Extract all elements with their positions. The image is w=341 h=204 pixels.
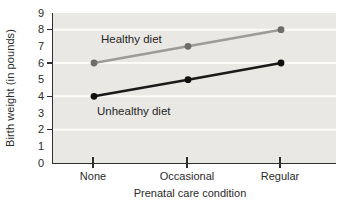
series-label-healthy-diet: Healthy diet [101,33,162,45]
point-healthy-diet-occasional [185,43,192,50]
y-tick-label-4: 4 [22,90,44,103]
y-axis-title: Birth weight (in pounds) [4,29,16,147]
birth-weight-chart: Birth weight (in pounds) 0123456789 Heal… [0,0,341,204]
y-tick-label-1: 1 [22,140,44,153]
x-tick-label-occasional: Occasional [142,170,232,182]
y-tick-label-3: 3 [22,107,44,120]
point-healthy-diet-none [91,60,98,67]
chart-lines-svg [53,13,336,163]
x-axis-title: Prenatal care condition [100,187,280,199]
point-healthy-diet-regular [278,26,285,33]
y-tick-label-2: 2 [22,123,44,136]
x-tick-mark-occasional [186,157,187,168]
series-label-unhealthy-diet: Unhealthy diet [97,105,171,117]
point-unhealthy-diet-none [91,93,98,100]
x-tick-label-regular: Regular [235,170,325,182]
x-tick-label-none: None [48,170,138,182]
x-tick-mark-regular [279,157,280,168]
y-tick-label-6: 6 [22,57,44,70]
plot-area: Healthy diet Unhealthy diet [52,13,336,164]
x-tick-mark-none [92,157,93,168]
y-tick-label-7: 7 [22,40,44,53]
y-tick-label-5: 5 [22,73,44,86]
y-tick-label-9: 9 [22,7,44,20]
y-tick-label-8: 8 [22,23,44,36]
y-tick-label-0: 0 [22,157,44,170]
point-unhealthy-diet-occasional [185,76,192,83]
point-unhealthy-diet-regular [278,60,285,67]
